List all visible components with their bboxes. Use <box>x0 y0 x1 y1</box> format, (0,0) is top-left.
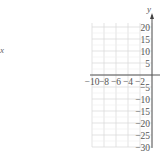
x-tick-label: −10 <box>85 77 100 87</box>
x-tick-label: −4 <box>123 77 133 87</box>
y-axis-label: y <box>146 4 151 14</box>
y-tick-label: −20 <box>135 119 150 129</box>
y-tick-label: −15 <box>135 107 150 117</box>
x-tick-label: −6 <box>111 77 121 87</box>
y-tick-label: 15 <box>141 35 151 45</box>
coordinate-grid: y−10−8−6−4−22015105−5−10−15−20−25−30 <box>0 0 160 164</box>
y-tick-label: −25 <box>135 131 150 141</box>
y-tick-label: −30 <box>135 143 150 153</box>
y-tick-label: 10 <box>141 47 151 57</box>
y-tick-label: −5 <box>140 83 150 93</box>
x-tick-label: −8 <box>99 77 109 87</box>
y-tick-label: 5 <box>145 59 150 69</box>
y-tick-label: −10 <box>135 95 150 105</box>
y-tick-label: 20 <box>141 23 151 33</box>
